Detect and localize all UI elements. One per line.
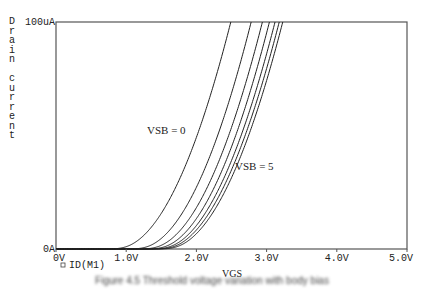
- y-tick-label-top: 100uA: [25, 17, 55, 28]
- annotation-vsb-0: VSB = 0: [147, 124, 186, 136]
- annotation-vsb-5: VSB = 5: [235, 160, 274, 172]
- y-axis-label-char: n: [9, 54, 15, 65]
- y-tick-label-bottom: 0A: [43, 244, 55, 255]
- x-tick-label: 5.0V: [389, 253, 413, 264]
- y-axis-label: Draincurrent: [9, 16, 15, 141]
- plot-frame: [56, 22, 407, 249]
- x-tick-label: 3.0V: [255, 253, 279, 264]
- x-tick-label: 4.0V: [325, 253, 349, 264]
- y-axis-label-char: t: [9, 130, 15, 141]
- legend-label: ID(M1): [69, 260, 105, 271]
- chart: Draincurrent 0V1.0V2.0V3.0V4.0V5.0V 100u…: [0, 0, 424, 293]
- x-ticks: 0V1.0V2.0V3.0V4.0V5.0V: [53, 249, 413, 264]
- x-tick-label: 1.0V: [114, 253, 138, 264]
- figure-caption: Figure 4.5 Threshold voltage variation w…: [0, 275, 424, 286]
- x-tick-label: 2.0V: [184, 253, 208, 264]
